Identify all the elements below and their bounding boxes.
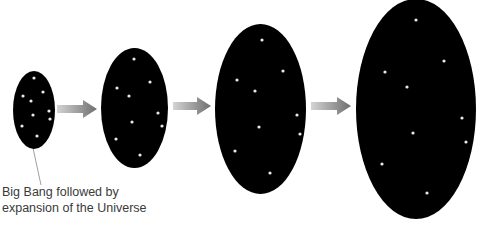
star-dot	[281, 69, 284, 72]
universe-stage-4	[356, 0, 476, 219]
star-dot	[20, 124, 23, 127]
star-dot	[35, 134, 38, 137]
star-dot	[132, 57, 135, 60]
universe-stage-2	[101, 48, 168, 168]
universe-ellipse	[101, 48, 168, 168]
star-dot	[138, 153, 141, 156]
star-dot	[383, 70, 386, 73]
star-dot	[295, 113, 298, 116]
star-dot	[32, 76, 35, 79]
star-dot	[47, 109, 50, 112]
star-dot	[130, 120, 133, 123]
star-dot	[114, 137, 117, 140]
star-dot	[460, 116, 463, 119]
arrow-right-icon	[173, 97, 211, 115]
leader-line	[33, 148, 41, 185]
star-dot	[414, 18, 417, 21]
star-dot	[405, 85, 408, 88]
star-dot	[160, 124, 163, 127]
star-dot	[260, 38, 263, 41]
arrow-right-icon	[57, 100, 97, 118]
star-dot	[268, 171, 271, 174]
star-dot	[298, 132, 301, 135]
star-dot	[48, 117, 51, 120]
star-dot	[235, 78, 238, 81]
star-dot	[464, 140, 467, 143]
star-dot	[253, 89, 256, 92]
star-dot	[29, 99, 32, 102]
star-dot	[41, 90, 44, 93]
star-dot	[31, 113, 34, 116]
caption-line-1: Big Bang followed by	[2, 184, 147, 200]
star-dot	[257, 125, 260, 128]
star-dot	[425, 191, 428, 194]
star-dot	[148, 80, 151, 83]
star-dot	[380, 162, 383, 165]
arrow-right-icon	[311, 97, 351, 115]
star-dot	[115, 86, 118, 89]
universe-stage-1	[13, 71, 55, 149]
star-dot	[411, 131, 414, 134]
star-dot	[233, 149, 236, 152]
universe-stage-3	[215, 24, 306, 194]
star-dot	[127, 94, 130, 97]
caption-leader-line	[33, 148, 41, 185]
star-dot	[442, 59, 445, 62]
universe-ellipse	[356, 0, 476, 219]
caption-line-2: expansion of the Universe	[2, 200, 147, 216]
caption: Big Bang followed by expansion of the Un…	[2, 184, 147, 216]
universe-ellipse	[215, 24, 306, 194]
star-dot	[156, 111, 159, 114]
star-dot	[21, 94, 24, 97]
